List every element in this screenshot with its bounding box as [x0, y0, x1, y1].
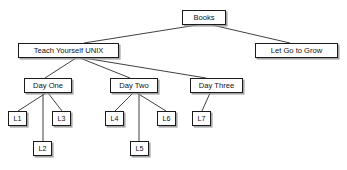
tree-edge-tyunix-to-day3	[84, 58, 206, 78]
tree-node-letgo[interactable]: Let Go to Grow	[255, 43, 338, 58]
tree-node-tyunix[interactable]: Teach Yourself UNIX	[18, 43, 119, 58]
tree-node-day2[interactable]: Day Two	[110, 78, 158, 93]
tree-node-day3[interactable]: Day Three	[190, 78, 243, 93]
tree-diagram: BooksTeach Yourself UNIXLet Go to GrowDa…	[0, 0, 347, 170]
tree-node-l3[interactable]: L3	[52, 111, 71, 126]
tree-node-l1[interactable]: L1	[8, 111, 27, 126]
tree-edge-books-to-letgo	[212, 25, 290, 43]
tree-node-l2[interactable]: L2	[33, 141, 52, 156]
tree-node-label: Day One	[33, 81, 63, 89]
tree-node-label: Day Three	[199, 81, 234, 89]
tree-edge-tyunix-to-day2	[80, 58, 130, 78]
tree-node-label: Day Two	[119, 81, 148, 89]
tree-edge-books-to-tyunix	[84, 25, 197, 43]
tree-node-books[interactable]: Books	[182, 10, 226, 25]
tree-node-label: Let Go to Grow	[271, 46, 323, 54]
tree-node-l7[interactable]: L7	[192, 111, 211, 126]
tree-node-label: Teach Yourself UNIX	[34, 46, 104, 54]
tree-node-l6[interactable]: L6	[157, 111, 176, 126]
tree-node-label: L4	[111, 114, 119, 121]
tree-node-label: L7	[198, 114, 206, 121]
tree-node-day1[interactable]: Day One	[24, 78, 72, 93]
tree-edge-day1-to-l3	[48, 93, 62, 111]
tree-node-label: L3	[58, 114, 66, 121]
tree-node-label: L1	[14, 114, 22, 121]
tree-node-label: L5	[136, 144, 144, 151]
tree-edge-day3-to-l7	[202, 93, 210, 111]
tree-edge-tyunix-to-day1	[45, 58, 76, 78]
tree-edge-day2-to-l6	[137, 93, 166, 111]
tree-edge-day2-to-l4	[115, 93, 133, 111]
tree-node-label: Books	[193, 13, 214, 21]
tree-node-l5[interactable]: L5	[130, 141, 149, 156]
tree-node-label: L6	[163, 114, 171, 121]
tree-node-label: L2	[39, 144, 47, 151]
tree-edge-day1-to-l1	[18, 93, 46, 111]
tree-node-l4[interactable]: L4	[105, 111, 124, 126]
